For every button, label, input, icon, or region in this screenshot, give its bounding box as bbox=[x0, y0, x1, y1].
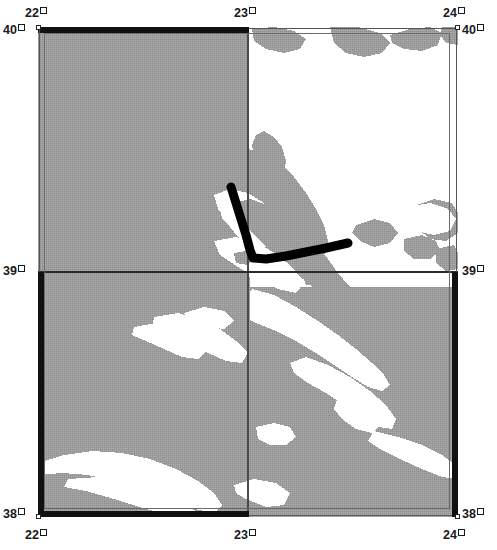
degree-icon bbox=[18, 265, 25, 272]
degree-icon bbox=[249, 529, 256, 536]
axis-label-top-24: 24 bbox=[443, 7, 465, 20]
degree-icon bbox=[477, 508, 484, 515]
axis-label-left-38: 38 bbox=[3, 508, 25, 521]
degree-icon bbox=[40, 529, 47, 536]
degree-icon bbox=[249, 7, 256, 14]
corner-tick-bottom-right bbox=[455, 514, 460, 519]
map-figure: 22 23 24 22 23 24 40 39 38 40 39 38 bbox=[0, 0, 497, 550]
frame-top-right-thin bbox=[249, 28, 458, 29]
map-plot-area[interactable] bbox=[38, 27, 458, 517]
frame-bottom-left-thick bbox=[38, 511, 249, 517]
frame-inner-outline bbox=[44, 33, 450, 509]
degree-icon bbox=[18, 24, 25, 31]
axis-label-top-23: 23 bbox=[234, 7, 256, 20]
axis-label-left-39: 39 bbox=[3, 265, 25, 278]
degree-icon bbox=[458, 529, 465, 536]
degree-icon bbox=[477, 265, 484, 272]
axis-label-bottom-22: 22 bbox=[25, 529, 47, 542]
degree-icon bbox=[458, 7, 465, 14]
corner-tick-top-left bbox=[36, 25, 41, 30]
corner-tick-top-right bbox=[455, 25, 460, 30]
frame-bottom-right-thin bbox=[249, 515, 458, 516]
frame-left-top-thin bbox=[39, 27, 40, 273]
degree-icon bbox=[18, 508, 25, 515]
corner-tick-bottom-left bbox=[36, 514, 41, 519]
axis-label-bottom-23: 23 bbox=[234, 529, 256, 542]
axis-label-bottom-24: 24 bbox=[443, 529, 465, 542]
frame-right-top-thin bbox=[456, 27, 457, 273]
degree-icon bbox=[40, 7, 47, 14]
axis-label-right-38: 38 bbox=[462, 508, 484, 521]
axis-label-left-40: 40 bbox=[3, 24, 25, 37]
axis-label-right-40: 40 bbox=[462, 24, 484, 37]
axis-label-right-39: 39 bbox=[462, 265, 484, 278]
frame-right-bottom-thick bbox=[452, 272, 458, 517]
axis-label-top-22: 22 bbox=[25, 7, 47, 20]
degree-icon bbox=[477, 24, 484, 31]
